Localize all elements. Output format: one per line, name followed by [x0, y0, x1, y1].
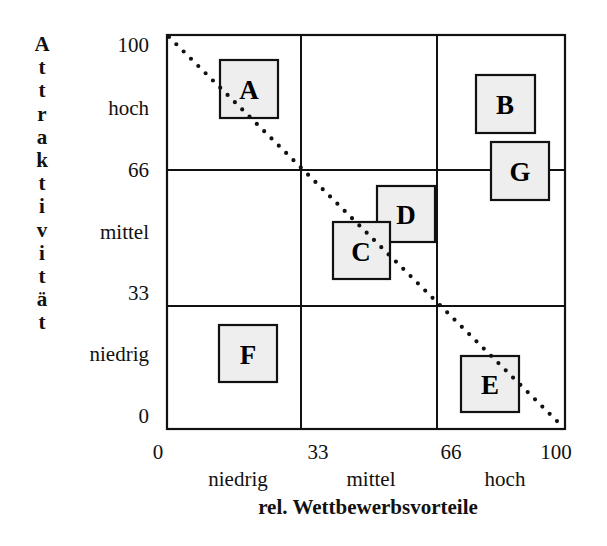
x-axis-title: rel. Wettbewerbsvorteile — [258, 495, 478, 519]
x-tick-33: 33 — [308, 440, 329, 464]
x-category-niedrig: niedrig — [208, 467, 267, 491]
item-box-g: G — [491, 142, 549, 200]
x-tick-100: 100 — [540, 440, 572, 464]
item-box-f: F — [219, 325, 277, 382]
item-label-f: F — [240, 340, 257, 370]
x-tick-66: 66 — [441, 440, 462, 464]
x-category-hoch: hoch — [485, 467, 526, 491]
item-box-b: B — [476, 75, 535, 133]
x-category-mittel: mittel — [347, 467, 396, 491]
item-label-c: C — [351, 237, 371, 267]
item-box-a: A — [220, 60, 278, 118]
item-label-e: E — [481, 370, 499, 400]
item-label-d: D — [396, 200, 416, 230]
item-label-g: G — [509, 157, 530, 187]
item-label-a: A — [239, 75, 259, 105]
item-box-e: E — [461, 356, 519, 412]
portfolio-matrix: A B G D C F E — [0, 0, 607, 546]
item-box-c: C — [333, 222, 390, 279]
item-label-b: B — [496, 90, 514, 120]
x-tick-0: 0 — [153, 440, 164, 464]
